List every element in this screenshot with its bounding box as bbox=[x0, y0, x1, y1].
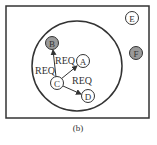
caption: (b) bbox=[73, 123, 84, 133]
node-e: E bbox=[126, 12, 139, 25]
diagram: REQ REQ REQ B A C D E F (b) bbox=[0, 0, 157, 145]
node-d: D bbox=[82, 90, 95, 103]
node-f: F bbox=[130, 47, 143, 60]
node-a: A bbox=[77, 55, 90, 68]
svg-text:A: A bbox=[80, 57, 87, 67]
edge-label-c-a: REQ bbox=[55, 55, 76, 66]
svg-text:D: D bbox=[85, 92, 92, 102]
svg-text:F: F bbox=[133, 49, 138, 59]
svg-text:E: E bbox=[129, 14, 135, 24]
edge-label-c-b: REQ bbox=[35, 65, 56, 76]
node-c: C bbox=[51, 77, 64, 90]
edge-c-d bbox=[63, 86, 81, 94]
svg-text:B: B bbox=[49, 39, 55, 49]
edge-label-c-d: REQ bbox=[72, 75, 93, 86]
node-b: B bbox=[46, 37, 59, 50]
svg-text:C: C bbox=[54, 79, 60, 89]
